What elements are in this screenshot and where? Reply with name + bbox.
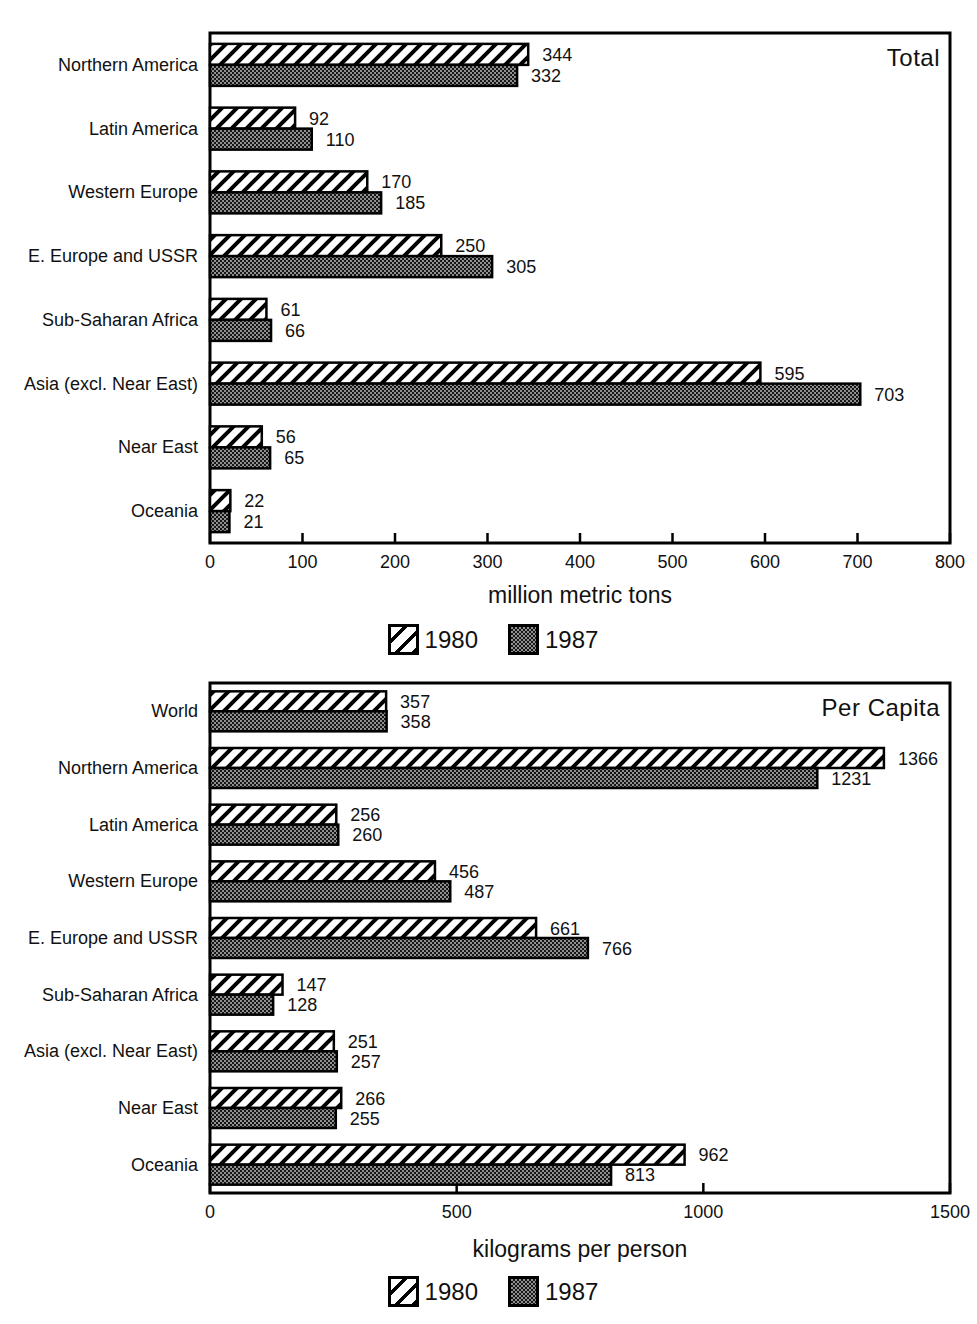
value-label: 766 (602, 939, 632, 959)
value-label: 305 (506, 257, 536, 277)
bar-1987-total (210, 256, 492, 277)
value-label: 358 (401, 712, 431, 732)
bar-1987-total (210, 192, 381, 213)
bar-1980-total (210, 426, 262, 447)
value-label: 256 (350, 805, 380, 825)
x-tick-label-total: 600 (750, 552, 780, 572)
x-tick-label-per-capita: 0 (205, 1202, 215, 1222)
value-label: 1231 (831, 769, 871, 789)
category-label: Latin America (89, 815, 199, 835)
category-label: Western Europe (68, 871, 198, 891)
x-tick-label-total: 0 (205, 552, 215, 572)
bar-1987-per-capita (210, 1051, 337, 1071)
category-label: Northern America (58, 758, 199, 778)
legend-label-1987: 1987 (545, 1278, 598, 1306)
x-axis-label-total: million metric tons (210, 582, 950, 609)
legend-per-capita: 1980 1987 (207, 1276, 779, 1307)
value-label: 185 (395, 193, 425, 213)
category-label: Oceania (131, 501, 199, 521)
bar-1980-total (210, 235, 441, 256)
bar-1980-per-capita (210, 861, 435, 881)
value-label: 456 (449, 862, 479, 882)
bar-1987-total (210, 384, 860, 405)
total-bar-chart: 0100200300400500600700800Northern Americ… (0, 0, 977, 580)
chart-title-per-capita: Per Capita (600, 694, 940, 722)
bar-1987-total (210, 447, 270, 468)
category-label: E. Europe and USSR (28, 928, 198, 948)
value-label: 661 (550, 919, 580, 939)
value-label: 250 (455, 236, 485, 256)
bar-1980-total (210, 363, 760, 384)
value-label: 56 (276, 427, 296, 447)
value-label: 1366 (898, 749, 938, 769)
bar-1987-total (210, 65, 517, 86)
bar-1980-total (210, 171, 367, 192)
value-label: 147 (297, 975, 327, 995)
category-label: E. Europe and USSR (28, 246, 198, 266)
category-label: World (151, 701, 198, 721)
bar-1987-total (210, 129, 312, 150)
value-label: 813 (625, 1165, 655, 1185)
x-tick-label-total: 100 (287, 552, 317, 572)
category-label: Asia (excl. Near East) (24, 374, 198, 394)
value-label: 66 (285, 321, 305, 341)
value-label: 703 (874, 385, 904, 405)
value-label: 92 (309, 109, 329, 129)
value-label: 21 (243, 512, 263, 532)
x-tick-label-per-capita: 1000 (683, 1202, 723, 1222)
category-label: Northern America (58, 55, 199, 75)
bar-1980-per-capita (210, 748, 884, 768)
value-label: 266 (355, 1089, 385, 1109)
bar-1980-per-capita (210, 1031, 334, 1051)
legend-label-1980: 1980 (425, 1278, 478, 1306)
value-label: 595 (774, 364, 804, 384)
x-tick-label-total: 700 (842, 552, 872, 572)
value-label: 110 (326, 130, 355, 150)
value-label: 257 (351, 1052, 381, 1072)
bar-1980-total (210, 299, 266, 320)
bar-1980-per-capita (210, 1088, 341, 1108)
x-tick-label-per-capita: 500 (442, 1202, 472, 1222)
value-label: 65 (284, 448, 304, 468)
bar-1987-per-capita (210, 938, 588, 958)
category-label: Western Europe (68, 182, 198, 202)
category-label: Sub-Saharan Africa (42, 985, 199, 1005)
x-tick-label-per-capita: 1500 (930, 1202, 970, 1222)
x-tick-label-total: 300 (472, 552, 502, 572)
category-label: Sub-Saharan Africa (42, 310, 199, 330)
bar-1987-total (210, 320, 271, 341)
value-label: 962 (699, 1145, 729, 1165)
value-label: 487 (464, 882, 494, 902)
category-label: Near East (118, 437, 198, 457)
x-axis-label-per-capita: kilograms per person (210, 1236, 950, 1263)
category-label: Near East (118, 1098, 198, 1118)
bar-1980-per-capita (210, 691, 386, 711)
per-capita-bar-chart: 050010001500World357358Northern America1… (0, 650, 977, 1230)
bar-1987-per-capita (210, 1165, 611, 1185)
bar-1987-per-capita (210, 995, 273, 1015)
value-label: 128 (287, 995, 317, 1015)
bar-1980-total (210, 44, 528, 65)
bar-1980-total (210, 108, 295, 129)
scanned-grain-production-charts: 0100200300400500600700800Northern Americ… (0, 0, 977, 1324)
bar-1980-per-capita (210, 1145, 685, 1165)
legend-swatch-1987-icon (508, 1276, 539, 1307)
value-label: 344 (542, 45, 572, 65)
bar-1980-per-capita (210, 975, 283, 995)
bar-1987-per-capita (210, 711, 387, 731)
bar-1980-per-capita (210, 805, 336, 825)
value-label: 357 (400, 692, 430, 712)
value-label: 255 (350, 1109, 380, 1129)
chart-title-total: Total (600, 44, 940, 72)
value-label: 22 (244, 491, 264, 511)
x-tick-label-total: 500 (657, 552, 687, 572)
category-label: Oceania (131, 1155, 199, 1175)
bar-1980-total (210, 490, 230, 511)
bar-1987-total (210, 511, 229, 532)
value-label: 251 (348, 1032, 378, 1052)
bar-1987-per-capita (210, 768, 817, 788)
bar-1987-per-capita (210, 1108, 336, 1128)
value-label: 332 (531, 66, 561, 86)
value-label: 61 (280, 300, 300, 320)
category-label: Latin America (89, 119, 199, 139)
